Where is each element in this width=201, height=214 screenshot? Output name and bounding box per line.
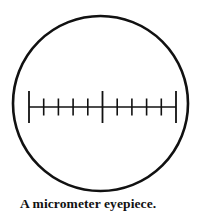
micrometer-eyepiece-figure: A micrometer eyepiece. <box>0 0 201 214</box>
eyepiece-field-of-view <box>0 0 201 196</box>
figure-caption: A micrometer eyepiece. <box>0 196 201 214</box>
micrometer-scale <box>29 91 176 123</box>
